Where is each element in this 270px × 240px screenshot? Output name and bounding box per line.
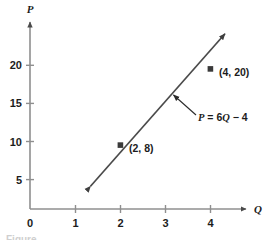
figure-caption-partial: Figure [6, 234, 37, 240]
origin-label: 0 [27, 217, 33, 229]
y-tick-label-5: 5 [16, 174, 22, 186]
x-tick-label-4: 4 [207, 217, 214, 229]
y-tick-label-10: 10 [10, 136, 22, 148]
equation-label: P = 6Q − 4 [198, 111, 248, 123]
y-tick-label-20: 20 [10, 59, 22, 71]
y-tick-label-15: 15 [10, 97, 22, 109]
y-axis-label: P [27, 3, 34, 15]
linear-function-chart: 5 10 15 20 P 1 2 3 4 0 Q [0, 0, 270, 240]
x-tick-label-2: 2 [117, 217, 123, 229]
data-point-marker-2-8 [118, 142, 124, 148]
data-point-marker-4-20 [208, 66, 214, 72]
data-point-label-2-8: (2, 8) [129, 142, 154, 154]
data-point-label-4-20: (4, 20) [219, 66, 249, 78]
x-tick-label-3: 3 [162, 217, 168, 229]
x-tick-label-1: 1 [72, 217, 78, 229]
figure-container: 5 10 15 20 P 1 2 3 4 0 Q [0, 0, 270, 240]
x-axis-label: Q [254, 203, 262, 215]
